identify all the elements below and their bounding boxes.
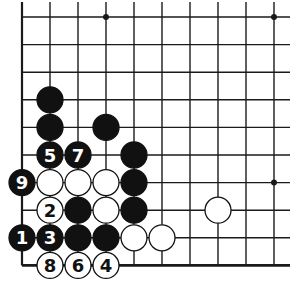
black-stone (65, 197, 91, 223)
black-stone (121, 142, 147, 168)
move-number-label: 9 (16, 172, 29, 193)
white-stone (121, 225, 147, 251)
black-stone (93, 225, 119, 251)
white-stone-move-4: 4 (93, 252, 119, 278)
white-stone-icon (93, 170, 119, 196)
move-number-label: 3 (44, 227, 57, 248)
move-number-label: 5 (44, 145, 57, 166)
move-number-label: 1 (16, 227, 29, 248)
black-stone-move-1: 1 (9, 225, 35, 251)
white-stone-icon (93, 197, 119, 223)
black-stone (121, 170, 147, 196)
white-stone-move-2: 2 (37, 197, 63, 223)
move-number-label: 8 (44, 255, 57, 276)
white-stone (65, 170, 91, 196)
go-board-diagram: 579213864 (0, 0, 301, 284)
black-stone-icon (93, 225, 119, 251)
white-stone-icon (37, 170, 63, 196)
white-stone-icon (65, 170, 91, 196)
black-stone-move-9: 9 (9, 170, 35, 196)
star-point (271, 14, 277, 20)
black-stone (37, 87, 63, 113)
black-stone-icon (37, 87, 63, 113)
black-stone-move-3: 3 (37, 225, 63, 251)
black-stone-icon (93, 114, 119, 140)
white-stone (149, 225, 175, 251)
white-stone-icon (149, 225, 175, 251)
black-stone-icon (121, 197, 147, 223)
black-stone-move-5: 5 (37, 142, 63, 168)
black-stone-icon (37, 114, 63, 140)
move-number-label: 4 (100, 255, 113, 276)
move-number-label: 2 (44, 200, 57, 221)
black-stone-icon (121, 142, 147, 168)
star-point (103, 14, 109, 20)
star-point (271, 180, 277, 186)
white-stone (37, 170, 63, 196)
move-number-label: 7 (72, 145, 85, 166)
black-stone-icon (65, 225, 91, 251)
white-stone (93, 197, 119, 223)
white-stone (93, 170, 119, 196)
black-stone (121, 197, 147, 223)
white-stone-icon (205, 197, 231, 223)
black-stone-icon (121, 170, 147, 196)
move-number-label: 6 (72, 255, 85, 276)
black-stone (93, 114, 119, 140)
black-stone (37, 114, 63, 140)
black-stone-move-7: 7 (65, 142, 91, 168)
white-stone-move-6: 6 (65, 252, 91, 278)
black-stone-icon (65, 197, 91, 223)
white-stone (205, 197, 231, 223)
white-stone-icon (121, 225, 147, 251)
white-stone-move-8: 8 (37, 252, 63, 278)
black-stone (65, 225, 91, 251)
